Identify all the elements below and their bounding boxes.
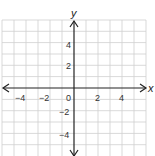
x-axis-label: x xyxy=(147,82,154,94)
x-tick-origin: 0 xyxy=(66,93,71,103)
y-tick-4: 4 xyxy=(66,40,71,50)
y-tick-neg2: −2 xyxy=(59,107,69,117)
x-tick-4: 4 xyxy=(119,93,124,103)
x-tick-2: 2 xyxy=(95,93,100,103)
y-tick-2: 2 xyxy=(66,61,71,71)
x-tick-neg2: −2 xyxy=(39,93,49,103)
coordinate-plane: y x −4 −2 0 2 4 4 2 −2 −4 xyxy=(0,0,155,156)
y-axis-label: y xyxy=(70,7,78,19)
y-tick-neg4: −4 xyxy=(59,130,69,140)
x-tick-neg4: −4 xyxy=(15,93,25,103)
